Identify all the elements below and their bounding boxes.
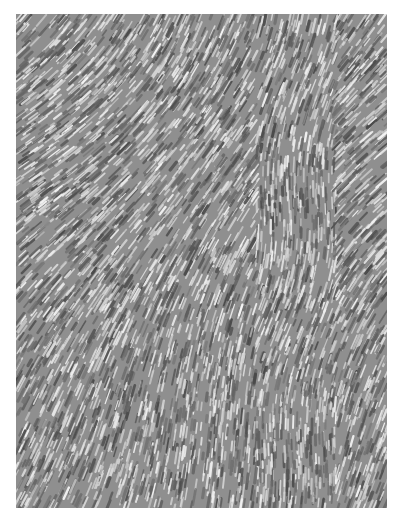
cell-texture xyxy=(16,14,387,508)
micrograph-image xyxy=(16,14,387,508)
